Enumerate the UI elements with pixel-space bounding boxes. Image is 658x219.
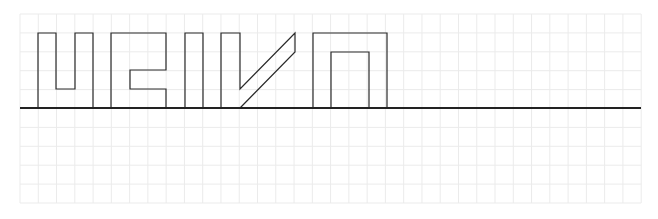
lettering-diagram	[0, 0, 658, 219]
